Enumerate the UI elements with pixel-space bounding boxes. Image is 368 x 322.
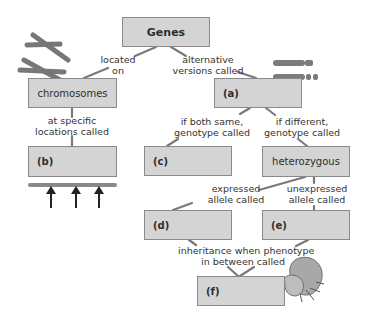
node-b-label: (b)	[37, 156, 53, 167]
node-f-blank[interactable]: (f)	[197, 276, 285, 306]
gene-locus-bar	[28, 183, 117, 208]
node-e-label: (e)	[271, 220, 287, 231]
node-genes-label: Genes	[147, 26, 185, 39]
node-genes: Genes	[122, 17, 210, 47]
link-label-unexpressed: unexpressed allele called	[284, 183, 350, 205]
chromosome-x-illustration	[20, 35, 68, 80]
node-b-blank[interactable]: (b)	[28, 146, 117, 177]
node-heterozygous: heterozygous	[262, 146, 350, 177]
node-f-label: (f)	[206, 286, 220, 297]
node-chromosomes-label: chromosomes	[37, 88, 107, 99]
link-label-both-same: if both same, genotype called	[174, 116, 250, 138]
link-label-expressed: expressed allele called	[206, 183, 266, 205]
node-heterozygous-label: heterozygous	[272, 156, 340, 167]
node-d-blank[interactable]: (d)	[144, 210, 232, 240]
chromosome-pair-illustration	[273, 60, 318, 80]
link-label-alternative-versions: alternative versions called	[168, 54, 248, 76]
link-label-specific-locations: at specific locations called	[32, 115, 112, 137]
link-label-located-on: located on	[98, 54, 138, 76]
link-label-different: if different, genotype called	[264, 116, 340, 138]
node-a-blank[interactable]: (a)	[214, 78, 302, 108]
link-label-inheritance: inheritance when phenotype in between ca…	[178, 245, 308, 267]
node-d-label: (d)	[153, 220, 169, 231]
concept-map: Genes chromosomes (a) (b) (c) heterozygo…	[0, 0, 368, 322]
node-c-label: (c)	[153, 156, 168, 167]
node-a-label: (a)	[223, 88, 239, 99]
node-c-blank[interactable]: (c)	[144, 146, 232, 176]
node-e-blank[interactable]: (e)	[262, 210, 350, 240]
node-chromosomes: chromosomes	[28, 78, 117, 108]
